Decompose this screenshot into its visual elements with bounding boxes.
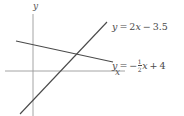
equation-label-line1: y = 2 x − 3.5 <box>112 22 168 32</box>
coordinate-plane <box>0 0 184 116</box>
eq1-equals: = <box>117 22 129 32</box>
eq2-equals: = <box>117 61 129 71</box>
line-graph-figure: y x y = 2 x − 3.5 y = − 1 2 x + 4 <box>0 0 184 116</box>
eq2-intercept: 4 <box>159 61 165 71</box>
line-y-equals-negative-half-x-plus-4 <box>16 41 113 62</box>
y-axis-label: y <box>33 2 38 11</box>
eq1-operator: − <box>141 22 153 32</box>
eq1-intercept: 3.5 <box>153 22 168 32</box>
equation-label-line2: y = − 1 2 x + 4 <box>112 59 166 73</box>
eq2-sign: − <box>129 61 137 71</box>
eq2-fraction-one-half: 1 2 <box>138 59 142 73</box>
eq2-operator: + <box>148 61 160 71</box>
eq2-frac-denominator: 2 <box>138 65 142 73</box>
